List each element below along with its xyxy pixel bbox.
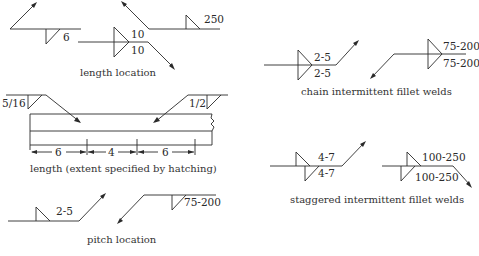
- pitch-location-group: 2-5 75-200 pitch location: [8, 193, 221, 245]
- weld-symbol-length-a: 6: [10, 2, 81, 44]
- length-location-group: 6 10 10 250 length location: [10, 1, 224, 78]
- weld-top-label: 2-5: [314, 51, 331, 63]
- weld-symbol-pitch-a: 2-5: [8, 193, 106, 221]
- weld-length-label: 6: [63, 31, 70, 43]
- caption-chain-intermittent: chain intermittent fillet welds: [301, 86, 452, 97]
- fillet-weld-icon: [207, 95, 221, 109]
- dimension-label: 6: [162, 146, 169, 158]
- chain-intermittent-group: 2-5 2-5 75-200 75-200 chain intermittent…: [264, 39, 479, 97]
- weld-bottom-label: 75-200: [443, 57, 479, 69]
- fillet-weld-icon: [36, 207, 50, 221]
- weld-top-label: 100-250: [422, 151, 466, 163]
- weld-symbol-extent-left: 5/16: [2, 95, 81, 123]
- fillet-weld-icon: [28, 95, 42, 109]
- weld-bottom-label: 100-250: [415, 171, 459, 183]
- arrowhead-icon: [117, 218, 123, 224]
- weld-symbol-length-c: 250: [121, 1, 224, 29]
- fillet-weld-icon: [407, 152, 421, 166]
- arrowhead-icon: [153, 117, 160, 123]
- weld-bottom-label: 4-7: [318, 167, 335, 179]
- weld-size-label: 5/16: [2, 97, 26, 109]
- dimension-label: 6: [55, 146, 62, 158]
- weld-pitch-label: 250: [204, 13, 224, 25]
- staggered-intermittent-group: 4-7 4-7 100-250 100-250 staggered interm…: [270, 141, 472, 205]
- fillet-weld-icon: [296, 152, 310, 166]
- weld-symbol-staggered-a: 4-7 4-7: [270, 141, 366, 181]
- weld-bottom-label: 2-5: [314, 67, 331, 79]
- dimension-line: 6 4 6: [31, 139, 195, 158]
- caption-length-location: length location: [80, 67, 157, 78]
- caption-staggered-intermittent: staggered intermittent fillet welds: [290, 194, 464, 205]
- fillet-weld-icon: [305, 166, 319, 181]
- weld-size-label: 1/2: [189, 97, 206, 109]
- weld-pitch-label: 2-5: [56, 205, 73, 217]
- weld-symbol-length-b: 10 10: [78, 27, 175, 70]
- weld-pitch-label: 75-200: [184, 196, 221, 208]
- dimension-label: 4: [108, 146, 115, 158]
- fillet-weld-icon: [401, 166, 415, 181]
- weld-symbol-chain-b: 75-200 75-200: [370, 39, 479, 79]
- weld-symbol-extent-right: 1/2: [153, 95, 228, 123]
- caption-pitch-location: pitch location: [87, 234, 157, 245]
- caption-length-extent: length (extent specified by hatching): [30, 163, 217, 174]
- break-line: [211, 114, 214, 131]
- fillet-weld-icon: [186, 15, 200, 29]
- weld-symbol-staggered-b: 100-250 100-250: [382, 151, 472, 188]
- weld-top-label: 75-200: [443, 40, 479, 52]
- weld-symbols-diagram: 6 10 10 250 length location 5/: [0, 0, 479, 256]
- length-extent-group: 5/16 1/2: [2, 95, 228, 174]
- fillet-weld-icon: [46, 29, 60, 44]
- weld-symbol-pitch-b: 75-200: [117, 195, 221, 224]
- weld-length-top-label: 10: [131, 28, 144, 40]
- weld-symbol-chain-a: 2-5 2-5: [264, 40, 359, 80]
- steel-plate: [30, 114, 214, 150]
- weld-length-bottom-label: 10: [131, 44, 144, 56]
- weld-top-label: 4-7: [318, 151, 335, 163]
